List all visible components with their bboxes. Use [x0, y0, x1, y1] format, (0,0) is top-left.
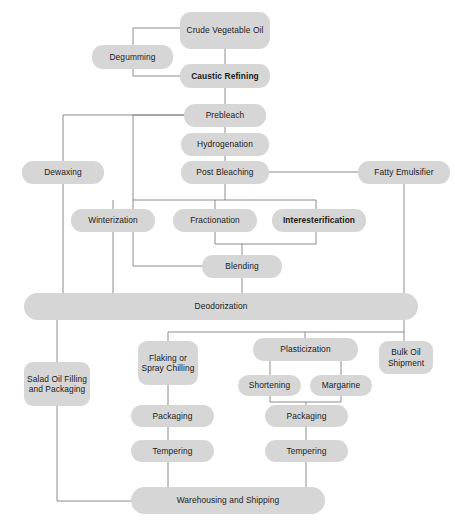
node-label: Post Bleaching [196, 167, 253, 178]
connector-prebleach-to-dewaxing [63, 115, 184, 161]
node-label: Prebleach [206, 110, 245, 121]
node-label: Packaging [152, 411, 192, 422]
node-label: Shortening [249, 380, 291, 391]
flowchart-canvas: Crude Vegetable OilDegummingCaustic Refi… [0, 0, 455, 532]
node-label: Winterization [88, 215, 138, 226]
node-shortening[interactable]: Shortening [238, 375, 301, 396]
node-prebleach[interactable]: Prebleach [184, 104, 266, 127]
node-winterization[interactable]: Winterization [71, 209, 155, 232]
node-plasticization[interactable]: Plasticization [253, 338, 358, 361]
node-label: Warehousing and Shipping [177, 495, 280, 506]
node-label: Packaging [286, 411, 326, 422]
node-fractionation[interactable]: Fractionation [173, 209, 257, 232]
node-label: Deodorization [195, 301, 248, 312]
node-label: Tempering [286, 446, 326, 457]
node-warehousing_shipping[interactable]: Warehousing and Shipping [131, 487, 325, 514]
node-label: Margarine [322, 380, 361, 391]
node-hydrogenation[interactable]: Hydrogenation [181, 133, 269, 156]
connector-fractionation-to-blending [215, 232, 242, 255]
node-fatty_emulsifier[interactable]: Fatty Emulsifier [358, 161, 450, 184]
node-label: Fatty Emulsifier [374, 167, 433, 178]
node-margarine[interactable]: Margarine [310, 375, 372, 396]
node-interesterification[interactable]: Interesterification [272, 209, 366, 232]
node-label: Degumming [109, 52, 155, 63]
connector-prebleach-to-branch_bus [133, 115, 184, 200]
node-packaging_flaking[interactable]: Packaging [131, 405, 214, 427]
node-label: Dewaxing [44, 167, 82, 178]
node-flaking_spray_chilling[interactable]: Flaking or Spray Chilling [138, 341, 198, 385]
node-dewaxing[interactable]: Dewaxing [22, 161, 104, 184]
node-label: Caustic Refining [191, 71, 259, 82]
node-blending[interactable]: Blending [202, 255, 282, 278]
node-label: Flaking or Spray Chilling [141, 353, 195, 374]
connector-interesterification-to-blending [242, 232, 316, 244]
node-post_bleaching[interactable]: Post Bleaching [181, 161, 269, 184]
node-deodorization[interactable]: Deodorization [24, 293, 418, 320]
node-label: Tempering [152, 446, 192, 457]
node-label: Crude Vegetable Oil [187, 25, 264, 36]
node-label: Hydrogenation [197, 139, 253, 150]
node-tempering_flaking[interactable]: Tempering [131, 440, 214, 462]
node-packaging_plasticization[interactable]: Packaging [265, 405, 348, 427]
connector-bracket-to-winterization [113, 200, 316, 209]
node-label: Fractionation [190, 215, 240, 226]
node-label: Salad Oil Filling and Packaging [27, 374, 87, 395]
node-label: Blending [225, 261, 258, 272]
node-label: Plasticization [280, 344, 330, 355]
node-label: Bulk Oil Shipment [382, 347, 430, 368]
node-salad_oil_filling_packaging[interactable]: Salad Oil Filling and Packaging [24, 362, 90, 406]
node-tempering_plasticization[interactable]: Tempering [265, 440, 348, 462]
node-crude_vegetable_oil[interactable]: Crude Vegetable Oil [180, 12, 270, 49]
connector-margarine-to-packaging_plasticization [306, 396, 341, 402]
connector-shortening-to-packaging_plasticization [270, 396, 306, 405]
node-label: Interesterification [283, 215, 355, 226]
connector-salad_oil_filling_packaging-to-warehousing_shipping [57, 406, 131, 501]
node-caustic_refining[interactable]: Caustic Refining [180, 64, 270, 88]
node-degumming[interactable]: Degumming [92, 45, 173, 69]
node-bulk_oil_shipment[interactable]: Bulk Oil Shipment [379, 341, 433, 374]
